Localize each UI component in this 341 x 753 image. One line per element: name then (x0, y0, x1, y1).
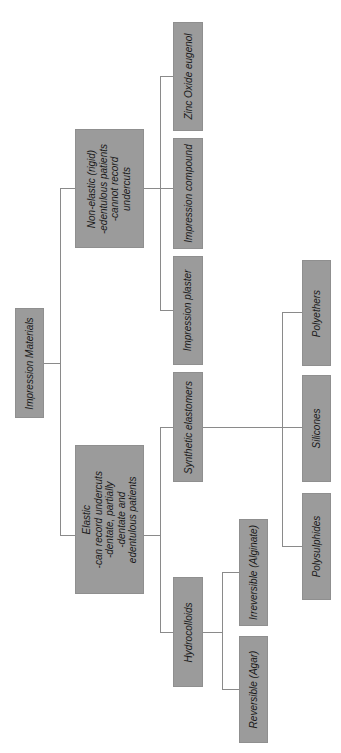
connector-hydro-out (203, 632, 222, 633)
node-polysulphides: Polysulphides (302, 493, 331, 600)
node-silicones: Silicones (302, 375, 331, 482)
node-reversible-agar: Reversible (Agar) (239, 636, 268, 743)
node-label: Polyethers (311, 289, 322, 336)
connector-irreversible (222, 572, 239, 573)
node-label: Irreversible (Alginate) (248, 525, 259, 620)
connector-root (44, 363, 60, 364)
connector-zinc (160, 76, 173, 77)
trunk-root (60, 188, 61, 536)
connector-synthetic (160, 427, 173, 428)
trunk-elastic (160, 427, 161, 633)
connector-hydro (160, 632, 173, 633)
node-synthetic-elastomers: Synthetic elastomers (173, 372, 203, 482)
node-label: Impression compound (183, 144, 194, 242)
node-label: Non-elastic (rigid) -edentulous patients… (87, 143, 133, 233)
node-label: Reversible (Agar) (248, 651, 259, 729)
node-impression-plaster: Impression plaster (173, 256, 203, 365)
trunk-synthetic (282, 312, 283, 547)
node-zinc-oxide-eugenol: Zinc Oxide eugenol (173, 22, 203, 131)
node-polyethers: Polyethers (302, 260, 331, 366)
connector-non-elastic-out (144, 188, 173, 189)
node-label: Silicones (311, 408, 322, 448)
connector-reversible (222, 689, 239, 690)
node-label: Synthetic elastomers (183, 381, 194, 474)
node-non-elastic: Non-elastic (rigid) -edentulous patients… (75, 129, 144, 248)
connector-plaster (160, 310, 173, 311)
connector-elastic-out (144, 535, 160, 536)
node-label: Impression plaster (183, 270, 194, 352)
connector-polyethers (282, 312, 302, 313)
connector-non-elastic (60, 188, 75, 189)
node-label: Zinc Oxide eugenol (183, 33, 194, 119)
node-label: Elastic -can record undercuts -dentate, … (81, 471, 139, 568)
connector-elastic (60, 535, 75, 536)
node-irreversible-alginate: Irreversible (Alginate) (239, 519, 268, 626)
node-impression-compound: Impression compound (173, 138, 203, 249)
connector-polysulphides (282, 546, 302, 547)
node-label: Polysulphides (311, 516, 322, 578)
connector-synthetic-out (203, 427, 302, 428)
trunk-non-elastic (160, 76, 161, 311)
node-label: Hydrocolloids (183, 602, 194, 662)
trunk-hydro (222, 572, 223, 690)
node-label: Impression Materials (24, 317, 35, 409)
node-hydrocolloids: Hydrocolloids (173, 577, 203, 687)
node-impression-materials: Impression Materials (15, 308, 44, 418)
node-elastic: Elastic -can record undercuts -dentate, … (75, 445, 144, 594)
